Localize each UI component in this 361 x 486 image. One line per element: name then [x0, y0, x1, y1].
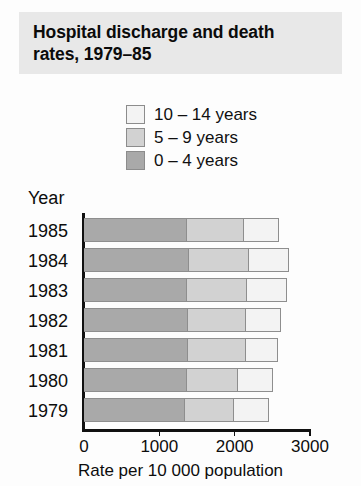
y-axis-tick-label: 1981	[28, 342, 68, 360]
bar-segment	[187, 368, 239, 392]
bar-row	[84, 368, 310, 392]
x-axis-title: Rate per 10 000 population	[0, 461, 361, 481]
bar-row	[84, 248, 310, 272]
y-axis-tick-label: 1985	[28, 222, 68, 240]
bar-segment	[244, 218, 279, 242]
y-axis-tick-label: 1982	[28, 312, 68, 330]
bar-row	[84, 218, 310, 242]
stacked-bar-chart: Year Rate per 10 000 population 19851984…	[0, 0, 361, 486]
bar-segment	[84, 308, 188, 332]
bar-segment	[188, 308, 246, 332]
plot-area	[84, 214, 310, 429]
x-axis-tick	[309, 429, 311, 436]
y-axis-tick-label: 1984	[28, 252, 68, 270]
bar-segment	[185, 398, 234, 422]
x-axis-tick	[234, 429, 236, 436]
bar-segment	[247, 278, 286, 302]
x-axis-line	[82, 429, 311, 432]
bar-segment	[246, 338, 278, 362]
y-axis-tick-label: 1980	[28, 372, 68, 390]
y-axis-tick-label: 1983	[28, 282, 68, 300]
bar-row	[84, 338, 310, 362]
bar-segment	[188, 338, 246, 362]
x-axis-tick	[159, 429, 161, 436]
x-axis-tick-label: 0	[79, 437, 88, 457]
bar-row	[84, 278, 310, 302]
x-axis-tick-label: 2000	[216, 437, 254, 457]
bar-segment	[84, 278, 187, 302]
x-axis-tick-label: 3000	[291, 437, 329, 457]
bar-segment	[189, 248, 249, 272]
bar-row	[84, 308, 310, 332]
x-axis-tick-label: 1000	[140, 437, 178, 457]
bar-segment	[84, 218, 187, 242]
bar-segment	[84, 248, 189, 272]
bar-segment	[84, 338, 188, 362]
bar-segment	[84, 398, 185, 422]
bar-segment	[187, 278, 248, 302]
bar-segment	[249, 248, 289, 272]
bar-segment	[187, 218, 244, 242]
y-axis-tick-label: 1979	[28, 402, 68, 420]
bar-segment	[246, 308, 281, 332]
y-axis-title: Year	[28, 188, 64, 209]
bar-segment	[238, 368, 273, 392]
bar-segment	[234, 398, 269, 422]
bar-row	[84, 398, 310, 422]
bar-segment	[84, 368, 187, 392]
